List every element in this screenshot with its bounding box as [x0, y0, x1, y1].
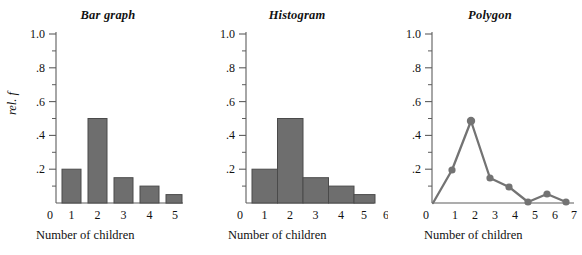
polygon-point-2 — [486, 174, 493, 181]
svg-text:.6: .6 — [36, 95, 45, 109]
svg-text:.2: .2 — [412, 162, 421, 176]
svg-text:1.0: 1.0 — [406, 27, 421, 41]
x-axis-label-bar: Number of children — [36, 228, 135, 243]
histogram-y-ticks — [239, 34, 246, 186]
svg-text:.6: .6 — [412, 95, 421, 109]
svg-text:0: 0 — [237, 208, 243, 222]
svg-text:5: 5 — [172, 208, 178, 222]
svg-text:0: 0 — [47, 208, 53, 222]
polygon-y-ticks — [425, 34, 432, 186]
svg-text:5: 5 — [532, 208, 538, 222]
svg-text:3: 3 — [121, 208, 127, 222]
hist-bar-6 — [354, 195, 375, 204]
svg-text:2: 2 — [95, 208, 101, 222]
polygon-point-1 — [467, 117, 475, 125]
bar-graph-plot: 1.0 .8 .6 .4 .2 0 1 2 3 4 5 6 — [0, 0, 194, 255]
histogram-y-tick-labels: 1.0 .8 .6 .4 .2 — [220, 27, 235, 176]
svg-text:.2: .2 — [226, 162, 235, 176]
polygon-point-0 — [448, 166, 455, 173]
svg-text:1: 1 — [69, 208, 75, 222]
svg-text:1: 1 — [452, 208, 458, 222]
svg-text:1.0: 1.0 — [220, 27, 235, 41]
panel-bar-graph: Bar graph rel. f 1.0 .8 — [0, 0, 194, 255]
polygon-point-4 — [524, 198, 531, 205]
svg-text:.6: .6 — [226, 95, 235, 109]
bar-3 — [114, 178, 133, 203]
hist-bar-2 — [278, 119, 304, 204]
polygon-series — [433, 117, 570, 206]
bar-graph-bars — [62, 119, 182, 204]
polygon-x-tick-labels: 0 1 2 3 4 5 6 7 — [423, 208, 577, 222]
svg-text:.2: .2 — [36, 162, 45, 176]
histogram-x-tick-labels: 0 1 2 3 4 5 6 — [237, 208, 388, 222]
bar-graph-x-tick-labels: 0 1 2 3 4 5 6 — [47, 208, 194, 222]
polygon-axes — [432, 32, 574, 203]
bar-2 — [88, 119, 107, 204]
hist-bar-4 — [329, 186, 355, 203]
svg-text:1: 1 — [262, 208, 268, 222]
polygon-plot: 1.0 .8 .6 .4 .2 0 1 2 3 4 — [388, 0, 582, 255]
bar-4 — [140, 186, 159, 203]
svg-text:3: 3 — [313, 208, 319, 222]
svg-text:.8: .8 — [226, 61, 235, 75]
hist-bar-1 — [252, 169, 278, 203]
polygon-point-3 — [505, 183, 512, 190]
panel-polygon: Polygon 1.0 .8 .6 .4 — [388, 0, 582, 255]
x-axis-label-polygon: Number of children — [424, 228, 523, 243]
svg-text:4: 4 — [512, 208, 518, 222]
svg-text:5: 5 — [361, 208, 367, 222]
svg-text:2: 2 — [287, 208, 293, 222]
svg-text:4: 4 — [338, 208, 344, 222]
histogram-bars — [252, 119, 375, 204]
statistics-figure: Bar graph rel. f 1.0 .8 — [0, 0, 582, 255]
x-axis-label-histogram: Number of children — [228, 228, 327, 243]
svg-text:.4: .4 — [36, 128, 45, 142]
svg-text:1.0: 1.0 — [30, 27, 45, 41]
svg-text:.4: .4 — [226, 128, 235, 142]
svg-text:.4: .4 — [412, 128, 421, 142]
svg-text:7: 7 — [571, 208, 577, 222]
svg-text:0: 0 — [423, 208, 429, 222]
hist-bar-3 — [303, 178, 329, 203]
svg-text:3: 3 — [492, 208, 498, 222]
bar-graph-y-ticks — [49, 34, 56, 186]
polygon-point-6 — [562, 198, 569, 205]
svg-text:.8: .8 — [412, 61, 421, 75]
svg-text:2: 2 — [472, 208, 478, 222]
histogram-plot: 1.0 .8 .6 .4 .2 0 1 2 3 4 5 6 — [194, 0, 388, 255]
polygon-y-tick-labels: 1.0 .8 .6 .4 .2 — [406, 27, 421, 176]
polygon-point-5 — [543, 190, 550, 197]
svg-text:.8: .8 — [36, 61, 45, 75]
svg-text:4: 4 — [147, 208, 153, 222]
bar-1 — [62, 169, 81, 203]
panel-histogram: Histogram 1.0 .8 .6 — [194, 0, 388, 255]
bar-graph-y-tick-labels: 1.0 .8 .6 .4 .2 — [30, 27, 45, 176]
bar-6 — [166, 195, 182, 204]
svg-text:6: 6 — [552, 208, 558, 222]
